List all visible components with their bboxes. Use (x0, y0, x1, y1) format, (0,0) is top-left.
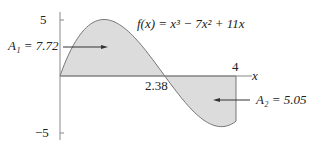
y-tick-label-top: 5 (40, 12, 47, 28)
a2-label: A₂ = 5.05 (256, 92, 306, 108)
x-end-label: 4 (232, 59, 239, 75)
equation-label: f(x) = x³ − 7x² + 11x (137, 16, 245, 32)
root-label: 2.38 (145, 78, 168, 94)
a1-label: A₁ = 7.72 (8, 38, 58, 54)
x-axis-label: x (252, 68, 258, 84)
shaded-area (60, 20, 236, 127)
y-tick-label-bottom: −5 (35, 125, 49, 141)
area-chart: 5 −5 2.38 4 x f(x) = x³ − 7x² + 11x A₁ =… (0, 0, 309, 147)
